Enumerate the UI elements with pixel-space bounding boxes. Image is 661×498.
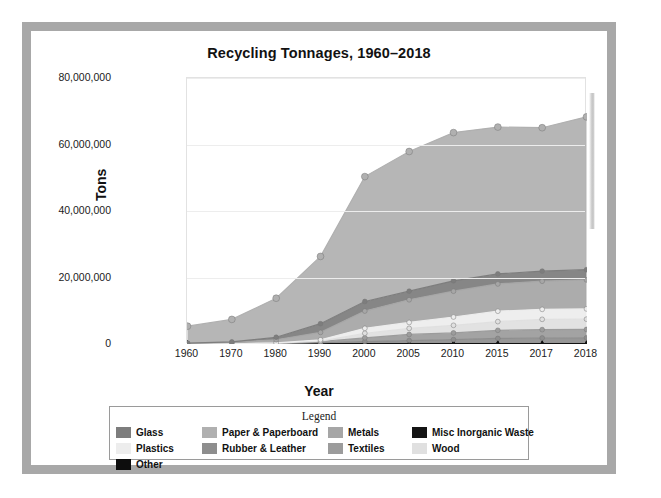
marker-plastics bbox=[318, 337, 323, 342]
y-tick-label: 40,000,000 bbox=[0, 204, 111, 216]
marker-glass bbox=[318, 321, 323, 326]
marker-wood bbox=[362, 331, 367, 336]
legend-items: GlassPaper & PaperboardMetalsMisc Inorga… bbox=[110, 423, 528, 472]
marker-glass bbox=[584, 267, 587, 272]
marker-wood bbox=[495, 319, 500, 324]
legend-swatch-icon bbox=[116, 459, 131, 470]
gridline bbox=[187, 278, 585, 279]
marker-glass bbox=[362, 299, 367, 304]
x-tick-label: 2010 bbox=[441, 347, 464, 359]
x-tick-label: 2017 bbox=[529, 347, 552, 359]
chart-card: Recycling Tonnages, 1960–2018 Tons 020,0… bbox=[31, 31, 607, 465]
x-tick-label: 2000 bbox=[352, 347, 375, 359]
x-tick-label: 2015 bbox=[485, 347, 508, 359]
marker-glass bbox=[407, 289, 412, 294]
marker-paper-paperboard bbox=[450, 129, 457, 136]
marker-textiles bbox=[540, 327, 545, 332]
marker-textiles bbox=[407, 332, 412, 337]
y-tick-label: 0 bbox=[0, 337, 111, 349]
legend-item-paper-paperboard[interactable]: Paper & Paperboard bbox=[202, 427, 328, 438]
legend-swatch-icon bbox=[116, 443, 131, 454]
legend-item-glass[interactable]: Glass bbox=[116, 427, 202, 438]
legend-swatch-icon bbox=[412, 443, 427, 454]
marker-glass bbox=[451, 278, 456, 283]
marker-metals bbox=[495, 282, 500, 287]
legend-swatch-icon bbox=[412, 427, 427, 438]
x-tick-label: 1960 bbox=[175, 347, 198, 359]
marker-plastics bbox=[584, 306, 587, 311]
plot-area bbox=[186, 77, 586, 343]
marker-wood bbox=[407, 326, 412, 331]
marker-paper-paperboard bbox=[273, 295, 280, 302]
chart-window-frame: Recycling Tonnages, 1960–2018 Tons 020,0… bbox=[22, 22, 616, 474]
x-tick-label: 1970 bbox=[219, 347, 242, 359]
marker-metals bbox=[318, 330, 323, 335]
marker-glass bbox=[274, 335, 279, 340]
marker-paper-paperboard bbox=[539, 124, 546, 131]
legend-swatch-icon bbox=[202, 443, 217, 454]
gridline bbox=[187, 211, 585, 212]
y-tick-label: 80,000,000 bbox=[0, 71, 111, 83]
marker-paper-paperboard bbox=[361, 173, 368, 180]
marker-wood bbox=[584, 317, 587, 322]
marker-paper-paperboard bbox=[406, 148, 413, 155]
marker-wood bbox=[540, 317, 545, 322]
legend-item-metals[interactable]: Metals bbox=[328, 427, 412, 438]
marker-glass bbox=[229, 340, 234, 344]
legend-item-label: Textiles bbox=[348, 443, 385, 454]
legend-swatch-icon bbox=[328, 427, 343, 438]
legend-item-misc-inorganic-waste[interactable]: Misc Inorganic Waste bbox=[412, 427, 536, 438]
legend-item-textiles[interactable]: Textiles bbox=[328, 443, 412, 454]
page-title: Recycling Tonnages, 1960–2018 bbox=[31, 45, 607, 61]
legend: Legend GlassPaper & PaperboardMetalsMisc… bbox=[109, 406, 529, 460]
y-axis-title: Tons bbox=[93, 169, 109, 201]
marker-glass bbox=[540, 269, 545, 274]
marker-glass bbox=[495, 271, 500, 276]
legend-item-wood[interactable]: Wood bbox=[412, 443, 536, 454]
gridline bbox=[187, 78, 585, 79]
x-tick-label: 2018 bbox=[574, 347, 597, 359]
legend-swatch-icon bbox=[116, 427, 131, 438]
legend-swatch-icon bbox=[202, 427, 217, 438]
legend-item-plastics[interactable]: Plastics bbox=[116, 443, 202, 454]
marker-textiles bbox=[495, 328, 500, 333]
legend-item-rubber-leather[interactable]: Rubber & Leather bbox=[202, 443, 328, 454]
legend-item-label: Rubber & Leather bbox=[222, 443, 306, 454]
marker-plastics bbox=[540, 307, 545, 312]
marker-metals bbox=[362, 309, 367, 314]
marker-wood bbox=[451, 323, 456, 328]
legend-item-label: Paper & Paperboard bbox=[222, 427, 318, 438]
marker-plastics bbox=[407, 320, 412, 325]
marker-textiles bbox=[584, 327, 587, 332]
marker-rubber-leather bbox=[540, 336, 545, 341]
y-tick-label: 60,000,000 bbox=[0, 138, 111, 150]
legend-swatch-icon bbox=[328, 443, 343, 454]
marker-paper-paperboard bbox=[494, 124, 501, 131]
y-tick-label: 20,000,000 bbox=[0, 271, 111, 283]
marker-metals bbox=[451, 289, 456, 294]
marker-rubber-leather bbox=[584, 335, 587, 340]
marker-metals bbox=[540, 279, 545, 284]
gridline bbox=[187, 145, 585, 146]
scrollbar-edge-strip[interactable] bbox=[589, 93, 595, 229]
plot-wrapper: 1960197019801990200020052010201520172018 bbox=[186, 77, 586, 366]
legend-item-other[interactable]: Other bbox=[116, 459, 202, 470]
legend-item-label: Plastics bbox=[136, 443, 174, 454]
marker-rubber-leather bbox=[407, 338, 412, 343]
legend-item-label: Other bbox=[136, 459, 163, 470]
marker-metals bbox=[407, 297, 412, 302]
legend-item-label: Misc Inorganic Waste bbox=[432, 427, 534, 438]
x-tick-label: 1980 bbox=[263, 347, 286, 359]
marker-plastics bbox=[495, 309, 500, 314]
marker-plastics bbox=[451, 315, 456, 320]
x-tick-label: 1990 bbox=[308, 347, 331, 359]
marker-paper-paperboard bbox=[228, 316, 235, 323]
x-tick-label: 2005 bbox=[396, 347, 419, 359]
x-axis-title: Year bbox=[31, 383, 607, 399]
marker-rubber-leather bbox=[451, 337, 456, 342]
marker-textiles bbox=[451, 330, 456, 335]
marker-plastics bbox=[362, 326, 367, 331]
marker-textiles bbox=[362, 335, 367, 340]
legend-title: Legend bbox=[110, 409, 528, 423]
legend-item-label: Wood bbox=[432, 443, 460, 454]
